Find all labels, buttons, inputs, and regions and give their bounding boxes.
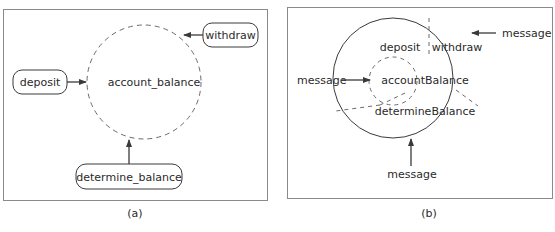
panel-b-caption: (b) [421, 207, 437, 220]
determine-balance-method-label: determineBalance [375, 105, 476, 118]
divider-left [380, 93, 405, 105]
account-balance-inner-label: accountBalance [381, 74, 469, 87]
withdraw-label: withdraw [205, 29, 256, 42]
message-left-label: message [297, 74, 347, 87]
deposit-label: deposit [20, 76, 61, 89]
panel-a: account_balance deposit withdraw determi… [4, 10, 268, 221]
determine-balance-label: determine_balance [76, 171, 182, 184]
deposit-method-label: deposit [380, 41, 421, 54]
withdraw-method-label: withdraw [432, 41, 483, 54]
panel-b: deposit withdraw accountBalance determin… [288, 8, 553, 221]
message-top-right-label: message [502, 27, 552, 40]
divider-right [456, 90, 478, 106]
message-bottom-label: message [387, 168, 437, 181]
account-balance-label: account_balance [108, 76, 201, 89]
panel-a-caption: (a) [127, 207, 142, 220]
